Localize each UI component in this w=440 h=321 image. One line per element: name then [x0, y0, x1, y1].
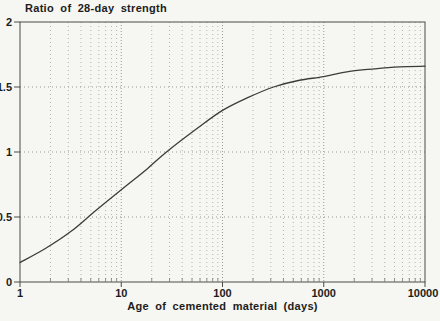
y-tick-label: 0	[6, 276, 12, 288]
y-tick-label: 1	[6, 146, 12, 158]
x-tick-label: 10000	[408, 287, 439, 299]
x-tick-label: 100	[213, 287, 231, 299]
y-tick-label: 2	[6, 16, 12, 28]
chart-figure: Ratio of 28-day strength 00.511.52110100…	[0, 0, 440, 321]
y-tick-label: 1.5	[0, 81, 12, 93]
strength-ratio-curve	[20, 66, 425, 262]
plot-area: 00.511.52110100100010000	[0, 0, 440, 321]
x-axis-title: Age of cemented material (days)	[20, 300, 425, 312]
x-tick-label: 1	[17, 287, 23, 299]
y-tick-label: 0.5	[0, 211, 12, 223]
x-tick-label: 1000	[312, 287, 336, 299]
x-tick-label: 10	[115, 287, 127, 299]
